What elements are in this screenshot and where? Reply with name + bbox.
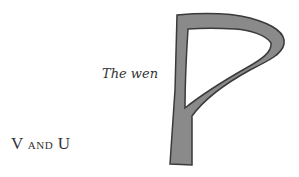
v-letter: V <box>11 134 23 153</box>
and-word: and <box>28 139 54 151</box>
and-text: and <box>28 139 54 151</box>
v-and-u-caption: V and U <box>11 134 70 154</box>
u-letter: U <box>58 134 70 153</box>
